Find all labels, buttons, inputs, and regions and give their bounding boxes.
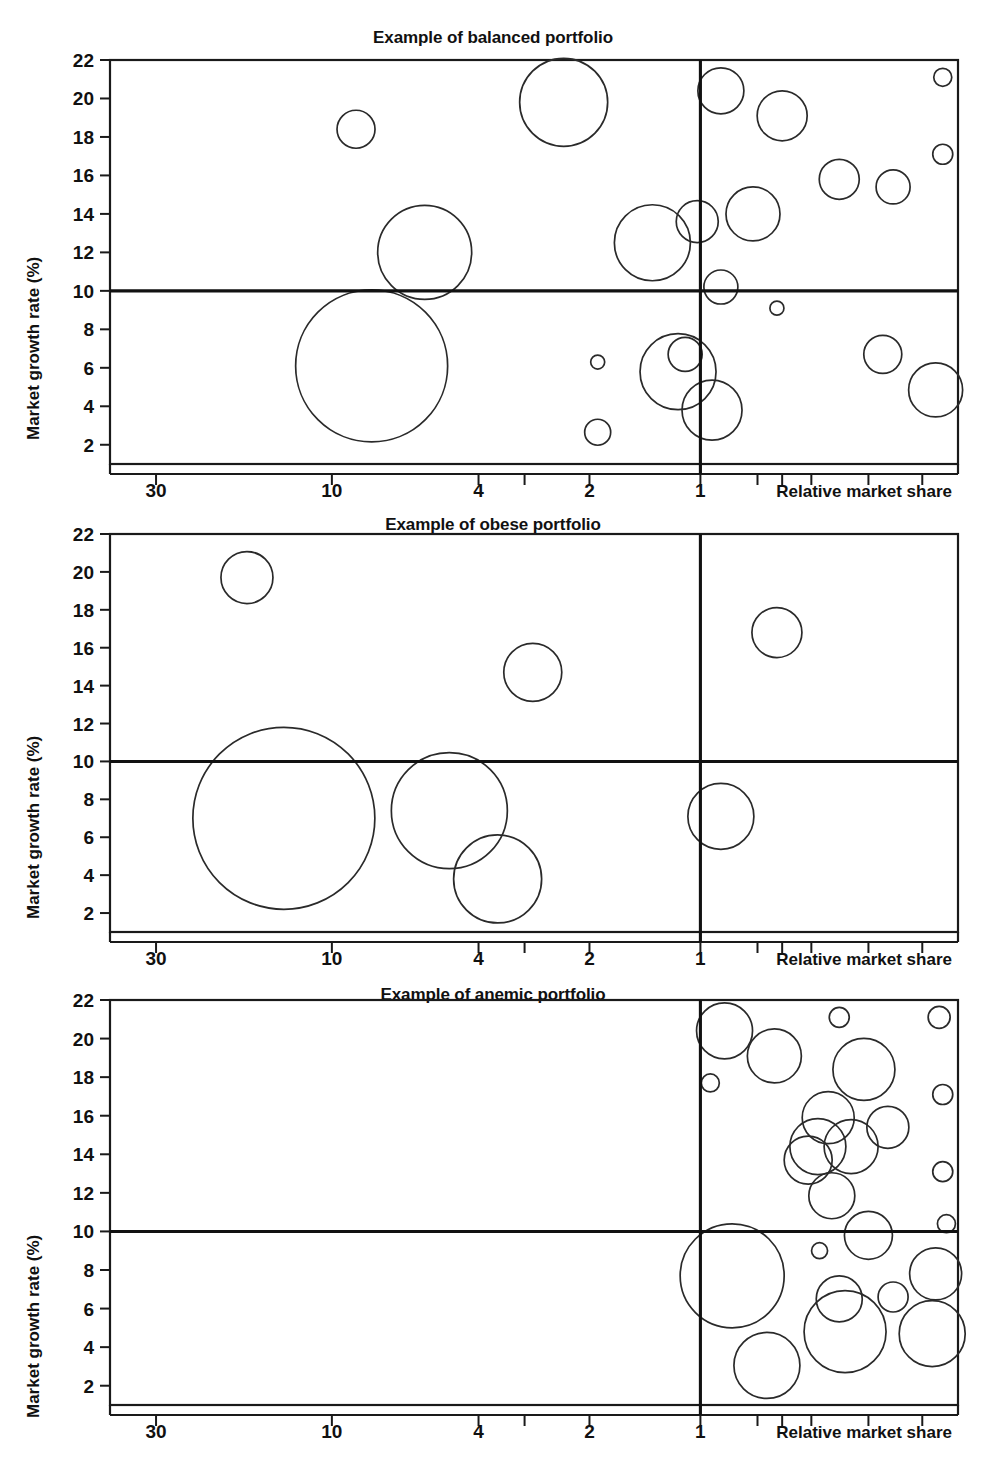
bubble-marker: [221, 552, 273, 604]
y-axis-tick-label: 22: [73, 50, 94, 71]
y-axis-tick-label: 10: [73, 751, 94, 772]
y-axis-tick-label: 2: [83, 435, 94, 456]
y-axis-tick-label: 22: [73, 990, 94, 1011]
y-axis-tick-label: 18: [73, 127, 94, 148]
y-axis-tick-label: 16: [73, 1106, 94, 1127]
bubble-marker: [680, 1224, 784, 1328]
x-axis-tick-label: 4: [473, 948, 484, 969]
y-axis-tick-label: 8: [83, 789, 94, 810]
scatter-plot-obese: 2468101214161820223010421Relative market…: [0, 494, 986, 974]
bubble-marker: [934, 68, 952, 86]
panel-obese: Example of obese portfolio Market growth…: [0, 494, 986, 974]
bubble-marker: [752, 608, 802, 658]
y-axis-tick-label: 14: [73, 1144, 95, 1165]
bubble-marker: [504, 643, 562, 701]
bubble-marker: [747, 1029, 801, 1083]
bubble-marker: [734, 1332, 800, 1398]
scatter-plot-anemic: 2468101214161820223010421Relative market…: [0, 968, 986, 1484]
bubble-marker: [520, 58, 608, 146]
bubble-marker: [378, 205, 472, 299]
bubble-marker: [899, 1301, 965, 1367]
bubble-marker: [296, 290, 448, 442]
bubble-marker: [844, 1211, 892, 1259]
y-axis-tick-label: 16: [73, 165, 94, 186]
bubble-marker: [697, 1003, 753, 1059]
y-axis-tick-label: 22: [73, 524, 94, 545]
bubble-marker: [591, 355, 605, 369]
bubble-marker: [819, 159, 859, 199]
bubble-marker: [876, 170, 910, 204]
bubble-marker: [193, 727, 375, 909]
bubble-marker: [933, 1085, 953, 1105]
bubble-marker: [614, 205, 690, 281]
bubble-marker: [864, 335, 902, 373]
y-axis-tick-label: 12: [73, 714, 94, 735]
bubble-marker: [867, 1106, 909, 1148]
y-axis-tick-label: 2: [83, 1376, 94, 1397]
scatter-plot-balanced: 2468101214161820223010421Relative market…: [0, 0, 986, 500]
bubble-marker: [809, 1173, 855, 1219]
bubble-marker: [804, 1291, 886, 1373]
bubble-marker: [829, 1007, 849, 1027]
bubble-marker: [698, 68, 744, 114]
bubble-marker: [454, 835, 542, 923]
bubble-marker: [824, 1120, 878, 1174]
bubble-marker: [910, 1248, 962, 1300]
y-axis-tick-label: 6: [83, 358, 94, 379]
plot-frame: [110, 534, 958, 932]
x-axis-tick-label: 2: [584, 948, 595, 969]
y-axis-tick-label: 4: [83, 865, 94, 886]
y-axis-tick-label: 14: [73, 204, 95, 225]
bubble-marker: [933, 144, 953, 164]
y-axis-tick-label: 10: [73, 281, 94, 302]
bubble-marker: [757, 91, 807, 141]
bubble-marker: [928, 1006, 950, 1028]
plot-area-obese: 2468101214161820223010421Relative market…: [0, 494, 986, 974]
bubble-marker: [812, 1243, 828, 1259]
y-axis-tick-label: 2: [83, 903, 94, 924]
y-axis-tick-label: 6: [83, 1299, 94, 1320]
bubble-marker: [640, 334, 716, 410]
y-axis-tick-label: 20: [73, 1029, 94, 1050]
x-axis-tick-label: 1: [695, 1421, 706, 1442]
y-axis-tick-label: 4: [83, 396, 94, 417]
y-axis-tick-label: 8: [83, 1260, 94, 1281]
bubble-marker: [704, 270, 738, 304]
bubble-marker: [337, 110, 375, 148]
y-axis-tick-label: 12: [73, 242, 94, 263]
bubble-marker: [668, 337, 702, 371]
plot-area-balanced: 2468101214161820223010421Relative market…: [0, 0, 986, 500]
x-axis-tick-label: 2: [584, 1421, 595, 1442]
x-axis-tick-label: 1: [695, 948, 706, 969]
plot-frame: [110, 60, 958, 464]
y-axis-tick-label: 18: [73, 1067, 94, 1088]
x-axis-title: Relative market share: [776, 1423, 952, 1442]
plot-area-anemic: 2468101214161820223010421Relative market…: [0, 968, 986, 1484]
x-axis-tick-label: 30: [145, 948, 166, 969]
bubble-marker: [878, 1282, 908, 1312]
bubble-marker: [816, 1276, 862, 1322]
y-axis-tick-label: 18: [73, 600, 94, 621]
y-axis-tick-label: 20: [73, 88, 94, 109]
panel-balanced: Example of balanced portfolio Market gro…: [0, 0, 986, 500]
y-axis-tick-label: 4: [83, 1337, 94, 1358]
y-axis-tick-label: 10: [73, 1221, 94, 1242]
bubble-marker: [909, 363, 963, 417]
bubble-marker: [933, 1162, 953, 1182]
bubble-marker: [701, 1074, 719, 1092]
x-axis-title: Relative market share: [776, 950, 952, 969]
bubble-marker: [585, 419, 611, 445]
panel-anemic: Example of anemic portfolio Market growt…: [0, 968, 986, 1484]
plot-frame: [110, 1000, 958, 1405]
y-axis-tick-label: 8: [83, 319, 94, 340]
y-axis-tick-label: 16: [73, 638, 94, 659]
x-axis-tick-label: 10: [321, 1421, 342, 1442]
x-axis-tick-label: 10: [321, 948, 342, 969]
y-axis-tick-label: 6: [83, 827, 94, 848]
bubble-marker: [391, 753, 507, 869]
bubble-marker: [726, 187, 780, 241]
bubble-marker: [770, 301, 784, 315]
bubble-marker: [676, 201, 718, 243]
bubble-marker: [688, 783, 754, 849]
figure-page: Example of balanced portfolio Market gro…: [0, 0, 986, 1484]
